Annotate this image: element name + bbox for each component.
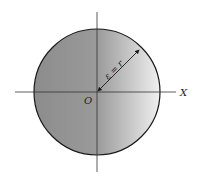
origin-label: O	[84, 95, 92, 106]
circle-diagram: ε = r O X	[0, 0, 198, 182]
x-axis-label: X	[179, 87, 188, 98]
